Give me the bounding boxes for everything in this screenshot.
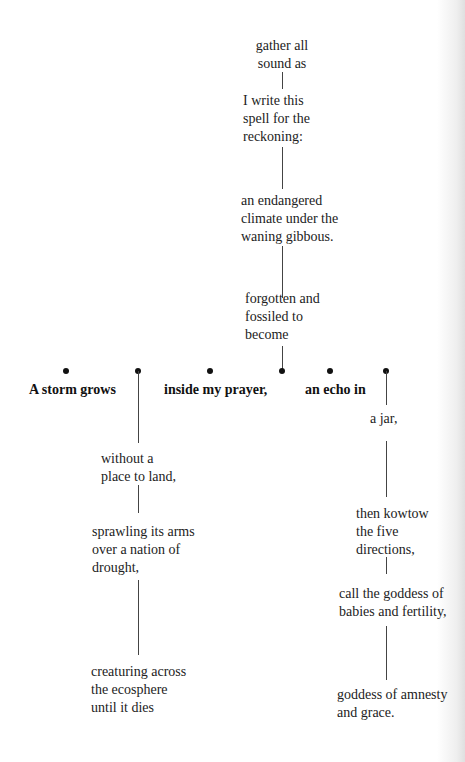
node-dot	[207, 368, 213, 374]
trunk-stanza-1: gather all sound as	[232, 37, 332, 73]
connector-line	[138, 580, 139, 655]
branch-label-prayer: inside my prayer,	[164, 381, 267, 399]
right-stanza-4: goddess of amnesty and grace.	[337, 686, 447, 722]
connector-line	[386, 557, 387, 574]
node-dot	[279, 368, 285, 374]
left-stanza-3: creaturing across the ecosphere until it…	[91, 663, 186, 717]
connector-line	[386, 441, 387, 497]
connector-line	[386, 626, 387, 680]
connector-line	[282, 72, 283, 89]
right-stanza-3: call the goddess of babies and fertility…	[339, 585, 447, 621]
connector-line	[138, 371, 139, 443]
connector-line	[282, 147, 283, 189]
trunk-stanza-2: I write this spell for the reckoning:	[243, 92, 310, 146]
connector-line	[138, 485, 139, 513]
right-stanza-2: then kowtow the five directions,	[356, 505, 429, 559]
node-dot	[327, 368, 333, 374]
page-gutter-shadow	[437, 0, 465, 762]
trunk-stanza-4: forgotten and fossiled to become	[245, 290, 320, 344]
branch-label-echo: an echo in	[305, 381, 366, 399]
node-dot	[63, 368, 69, 374]
trunk-stanza-3: an endangered climate under the waning g…	[241, 192, 338, 246]
branch-label-storm: A storm grows	[29, 381, 116, 399]
right-stanza-1: a jar,	[370, 410, 397, 428]
left-stanza-1: without a place to land,	[101, 450, 176, 486]
left-stanza-2: sprawling its arms over a nation of drou…	[92, 523, 195, 577]
connector-line	[386, 371, 387, 405]
